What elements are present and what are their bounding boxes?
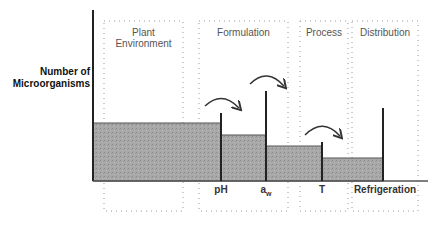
bar-plant-environment: [93, 123, 221, 181]
curved-arrow-icon: [205, 98, 239, 108]
stage-title-line: Formulation: [199, 27, 288, 38]
hurdle-arrows: [205, 76, 340, 136]
curved-arrow-icon: [305, 126, 340, 136]
factor-label-refrigeration: Refrigeration: [352, 184, 418, 195]
stage-box-formulation: [199, 21, 288, 211]
y-axis-label: Number of Microorganisms: [0, 66, 90, 90]
factor-label-ph: pH: [209, 184, 233, 195]
bar-after-aw: [266, 146, 322, 181]
stage-title-formulation: Formulation: [199, 27, 288, 38]
stage-title-distribution: Distribution: [352, 27, 418, 38]
stage-box-plant-environment: [104, 21, 183, 211]
y-axis-label-line2: Microorganisms: [0, 78, 90, 90]
y-axis-label-line1: Number of: [0, 66, 90, 78]
population-bars: [93, 123, 383, 181]
stage-title-plant-environment: Plant Environment: [104, 27, 183, 49]
stage-title-line: Distribution: [352, 27, 418, 38]
factor-label-temperature: T: [310, 184, 334, 195]
stage-title-process: Process: [300, 27, 348, 38]
factor-label-aw: aw: [254, 184, 278, 197]
stage-title-line: Process: [300, 27, 348, 38]
bar-after-temperature: [322, 158, 383, 181]
stage-boxes: [104, 21, 418, 211]
stage-title-line: Plant: [104, 27, 183, 38]
stage-box-distribution: [352, 21, 418, 211]
stage-title-line: Environment: [104, 38, 183, 49]
stage-box-process: [300, 21, 348, 211]
bar-after-ph: [221, 135, 266, 181]
factor-label-aw-sub: w: [266, 190, 271, 197]
curved-arrow-icon: [250, 76, 284, 86]
